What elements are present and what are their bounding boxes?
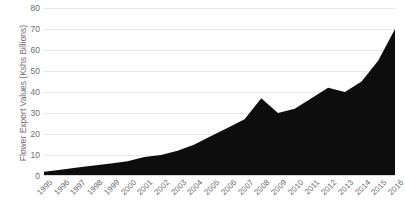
x-axis-line: [44, 175, 395, 176]
y-tick-label: 20: [0, 129, 40, 139]
plot-area: [44, 8, 395, 176]
y-tick-label: 60: [0, 45, 40, 55]
y-tick-label: 50: [0, 66, 40, 76]
y-axis-tick-labels: 01020304050607080: [0, 8, 40, 176]
y-tick-label: 10: [0, 150, 40, 160]
y-tick-label: 0: [0, 171, 40, 181]
y-tick-label: 30: [0, 108, 40, 118]
series-area-flower-export-values: [44, 8, 395, 176]
y-tick-label: 40: [0, 87, 40, 97]
y-tick-label: 70: [0, 24, 40, 34]
y-tick-label: 80: [0, 3, 40, 13]
x-axis-tick-labels: 1995199619971998199920002001200220032004…: [44, 178, 395, 221]
